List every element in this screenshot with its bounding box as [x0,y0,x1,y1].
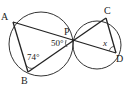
geometry-diagram: A B P C D 50° 74° x [0,0,129,86]
label-P: P [64,26,70,37]
angle-arc-D [109,46,114,51]
angle-label-74: 74° [27,52,40,62]
segment-AB [13,22,28,72]
label-C: C [104,5,111,16]
label-B: B [21,75,28,86]
angle-label-x: x [102,38,107,48]
label-D: D [116,53,123,64]
label-A: A [1,11,9,22]
angle-label-50: 50° [51,38,64,48]
